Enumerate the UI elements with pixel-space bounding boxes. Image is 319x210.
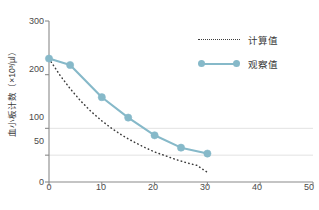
chart-container: 血小板计数（×10³/µl） 300 200 100 50 0 0 10 20 …	[0, 0, 319, 210]
legend-item-calculated[interactable]: 计算值	[196, 28, 314, 52]
legend-label-observed: 观察值	[248, 57, 278, 71]
series-observed-line	[49, 59, 207, 154]
legend-item-observed[interactable]: 观察值	[196, 52, 314, 76]
legend-label-calculated: 计算值	[248, 33, 278, 47]
series-observed-markers	[45, 55, 211, 157]
legend: 计算值 观察值	[196, 28, 314, 76]
dotted-line-key-icon	[196, 33, 242, 47]
solid-line-marker-key-icon	[196, 57, 242, 71]
